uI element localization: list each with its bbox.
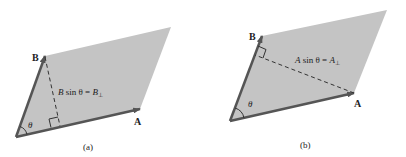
height-label: B sin θ = B⊥ [58,87,103,98]
caption-b: (b) [300,140,311,150]
vector-b-label: B [249,31,256,42]
parallelogram-diagram: θ B A B sin θ = B⊥ (a) θ B A A sin θ = A… [0,0,406,157]
panel-b: θ B A A sin θ = A⊥ (b) [230,10,387,150]
vector-a-label: A [134,116,142,127]
height-label: A sin θ = A⊥ [294,55,340,66]
angle-label: θ [28,120,33,130]
angle-label: θ [248,99,253,109]
caption-a: (a) [83,142,93,152]
vector-a-label: A [354,98,362,109]
panel-a: θ B A B sin θ = B⊥ (a) [16,27,171,152]
vector-b-label: B [32,52,39,63]
